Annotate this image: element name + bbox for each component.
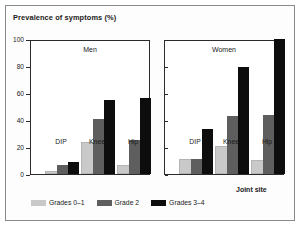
panel-women: Women	[164, 40, 284, 175]
bar	[140, 98, 151, 174]
legend-item: Grades 3–4	[151, 199, 205, 206]
panel-women-inner-tick	[165, 40, 168, 41]
bar	[68, 162, 79, 174]
y-axis-tick-label-wrap: 100	[0, 37, 24, 44]
y-axis-tick	[26, 175, 30, 176]
x-axis-title: Joint site	[236, 186, 267, 193]
panel-women-inner-tick	[165, 67, 168, 68]
figure: Prevalence of symptoms (%) 020406080100 …	[0, 0, 300, 226]
y-axis-tick-label-wrap: 40	[0, 118, 24, 125]
bar-group	[251, 41, 285, 174]
legend-item: Grade 2	[97, 199, 140, 206]
y-axis-tick-label-wrap: 60	[0, 91, 24, 98]
panel-women-inner-tick	[165, 148, 168, 149]
bar	[238, 67, 249, 174]
chart-title: Prevalence of symptoms (%)	[13, 13, 116, 22]
bar	[129, 140, 140, 174]
category-label: Knee	[80, 138, 114, 145]
bar	[93, 119, 104, 174]
y-axis-tick-label-wrap: 0	[0, 172, 24, 179]
legend-swatch	[31, 200, 46, 206]
y-axis-tick-label-wrap: 80	[0, 64, 24, 71]
legend: Grades 0–1Grade 2Grades 3–4	[31, 199, 205, 206]
panel-women-inner-tick	[165, 121, 168, 122]
legend-label: Grade 2	[115, 199, 140, 206]
bar-group	[117, 41, 151, 174]
bar	[57, 165, 68, 174]
legend-label: Grades 0–1	[49, 199, 85, 206]
panel-women-inner-tick	[165, 175, 168, 176]
bar-group	[215, 41, 249, 174]
category-label: DIP	[44, 138, 78, 145]
plot-area-men	[31, 41, 149, 174]
legend-swatch	[151, 200, 166, 206]
bar-group	[179, 41, 213, 174]
bar	[274, 39, 285, 174]
panel-women-inner-tick	[165, 94, 168, 95]
y-axis-tick-label: 40	[2, 118, 24, 125]
plot-area-women	[165, 41, 283, 174]
y-axis-tick-label: 0	[2, 172, 24, 179]
category-label: Hip	[250, 138, 284, 145]
bar-group	[81, 41, 115, 174]
panel-men: Men	[30, 40, 150, 175]
y-axis-tick-label: 20	[2, 145, 24, 152]
legend-item: Grades 0–1	[31, 199, 85, 206]
bar	[104, 100, 115, 174]
y-axis-tick-label: 60	[2, 91, 24, 98]
bar	[191, 159, 202, 174]
y-axis-tick-label-wrap: 20	[0, 145, 24, 152]
legend-label: Grades 3–4	[169, 199, 205, 206]
category-label: Hip	[116, 138, 150, 145]
y-axis-tick-label: 100	[2, 37, 24, 44]
bar-group	[45, 41, 79, 174]
y-axis-tick-label: 80	[2, 64, 24, 71]
legend-swatch	[97, 200, 112, 206]
category-label: Knee	[214, 138, 248, 145]
category-label: DIP	[178, 138, 212, 145]
bar	[202, 129, 213, 174]
